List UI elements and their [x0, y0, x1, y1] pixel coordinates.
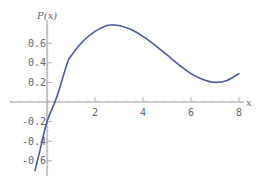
x-tick-label: 8 [236, 107, 242, 118]
y-tick-label: 0.4 [28, 57, 46, 68]
y-tick-label: -0.2 [22, 116, 46, 127]
y-tick-label: 0.2 [28, 77, 46, 88]
x-tick-label: 4 [140, 107, 146, 118]
ticks: 24680.60.40.2-0.2-0.4-0.6 [11, 26, 242, 171]
x-tick-label: 6 [188, 107, 194, 118]
x-tick-label: 2 [92, 107, 98, 118]
y-axis-label: P(x) [36, 10, 57, 21]
x-axis-label: x [246, 97, 252, 108]
y-tick-label: 0.6 [28, 38, 46, 49]
data-curve [35, 25, 239, 171]
line-chart: 24680.60.40.2-0.2-0.4-0.6 P(x) x [0, 0, 271, 188]
y-tick-label: -0.6 [22, 155, 46, 166]
